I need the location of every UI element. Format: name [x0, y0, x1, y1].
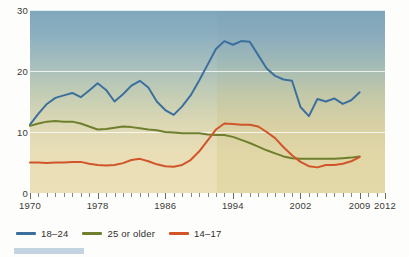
x-axis-tick [165, 193, 166, 199]
x-axis-tick [199, 193, 200, 197]
chart-legend: 18–24 25 or older 14–17 [16, 228, 221, 239]
x-axis-tick [275, 193, 276, 197]
plot-area [30, 10, 385, 193]
series-lines [30, 10, 385, 193]
x-axis-tick-label: 1986 [154, 200, 176, 211]
x-axis-tick-label: 2012 [374, 200, 396, 211]
x-axis-tick-label: 2002 [290, 200, 312, 211]
x-axis: 1970197819861994200220092012 [30, 193, 385, 223]
legend-color-swatch-icon [169, 232, 189, 235]
x-axis-tick [309, 193, 310, 197]
x-axis-tick [216, 193, 217, 197]
x-axis-tick [106, 193, 107, 197]
x-axis-tick [191, 193, 192, 197]
x-axis-tick [377, 193, 378, 197]
line-series-18-24 [30, 41, 360, 125]
x-axis-tick [89, 193, 90, 197]
x-axis-tick [300, 193, 301, 199]
legend-color-swatch-icon [16, 232, 36, 235]
x-axis-tick [30, 193, 31, 199]
y-axis: 30 20 10 0 [0, 0, 28, 193]
x-axis-tick [360, 193, 361, 199]
x-axis-tick [140, 193, 141, 197]
x-axis-tick [38, 193, 39, 197]
x-axis-tick [343, 193, 344, 197]
legend-label: 18–24 [41, 228, 68, 239]
x-axis-tick [250, 193, 251, 197]
x-axis-tick-label: 1970 [19, 200, 41, 211]
x-axis-tick [98, 193, 99, 199]
y-axis-tick-label: 10 [4, 127, 28, 138]
line-series-14-17 [30, 123, 360, 167]
x-axis-tick [326, 193, 327, 197]
x-axis-tick [317, 193, 318, 197]
x-axis-tick-label: 2009 [349, 200, 371, 211]
x-axis-tick [47, 193, 48, 197]
x-axis-tick [55, 193, 56, 197]
x-axis-tick [64, 193, 65, 197]
legend-item-18-24: 18–24 [16, 228, 68, 239]
y-axis-tick-label: 20 [4, 66, 28, 77]
x-axis-tick [224, 193, 225, 197]
legend-label: 25 or older [107, 228, 155, 239]
x-axis-tick [182, 193, 183, 197]
x-axis-tick [284, 193, 285, 197]
bottom-edge-artifact [14, 248, 84, 254]
x-axis-tick [148, 193, 149, 197]
x-axis-tick [292, 193, 293, 197]
x-axis-tick [157, 193, 158, 197]
y-axis-tick-label: 30 [4, 5, 28, 16]
x-axis-tick [208, 193, 209, 197]
x-axis-tick [368, 193, 369, 197]
x-axis-tick [241, 193, 242, 197]
legend-item-14-17: 14–17 [169, 228, 221, 239]
x-axis-tick [385, 193, 386, 199]
legend-color-swatch-icon [82, 232, 102, 235]
x-axis-tick [258, 193, 259, 197]
x-axis-tick [81, 193, 82, 197]
x-axis-tick [267, 193, 268, 197]
x-axis-tick [131, 193, 132, 197]
x-axis-tick-label: 1978 [87, 200, 109, 211]
legend-label: 14–17 [194, 228, 221, 239]
x-axis-tick [174, 193, 175, 197]
x-axis-tick [351, 193, 352, 197]
x-axis-tick [115, 193, 116, 197]
x-axis-tick [233, 193, 234, 199]
x-axis-tick-label: 1994 [222, 200, 244, 211]
legend-item-25-or-older: 25 or older [82, 228, 155, 239]
line-series-25-or-older [30, 121, 360, 159]
chart-figure: 30 20 10 0 1970197819861994200220092012 … [0, 0, 409, 257]
y-axis-tick-label: 0 [4, 188, 28, 199]
x-axis-tick [334, 193, 335, 197]
x-axis-tick [123, 193, 124, 197]
x-axis-tick [72, 193, 73, 197]
